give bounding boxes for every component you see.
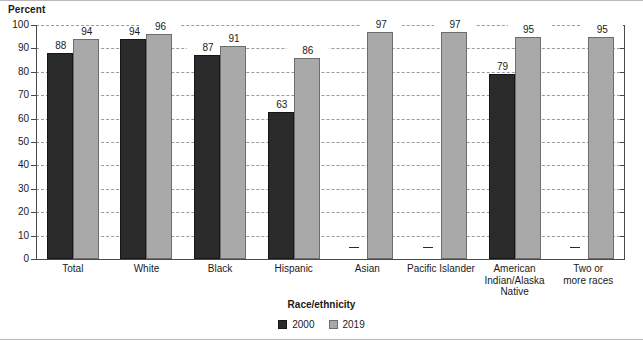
- y-tick-label: 60: [18, 114, 29, 124]
- y-axis-title: Percent: [8, 4, 45, 15]
- y-tick-label: 100: [12, 20, 29, 30]
- bar-2019-white: [146, 34, 172, 259]
- legend-swatch-icon: [278, 320, 287, 329]
- missing-data-dash: [570, 247, 580, 248]
- legend-item-2000[interactable]: 2000: [278, 319, 314, 330]
- bar-2019-two-or-more-races: [588, 37, 614, 259]
- bar-2019-black: [220, 46, 246, 259]
- bar-2000-total: [47, 53, 73, 259]
- x-category-label: Asian: [331, 263, 405, 275]
- bar-2000-black: [194, 55, 220, 259]
- bar-2000-white: [120, 39, 146, 259]
- bar-chart-figure: Percent 0102030405060708090100 TotalWhit…: [0, 0, 643, 340]
- bar-value-label: 95: [508, 24, 550, 35]
- bar-value-label: 97: [360, 19, 402, 30]
- y-tick-label: 30: [18, 184, 29, 194]
- x-category-label: American Indian/Alaska Native: [478, 263, 552, 298]
- bar-value-label: 91: [213, 33, 255, 44]
- bar-2019-hispanic: [294, 58, 320, 259]
- bar-2019-pacific-islander: [441, 32, 467, 259]
- bar-value-label: 97: [434, 19, 476, 30]
- y-tick-label: 80: [18, 67, 29, 77]
- legend-label: 2000: [292, 319, 314, 330]
- x-axis-title: Race/ethnicity: [0, 299, 643, 310]
- y-tick-label: 40: [18, 160, 29, 170]
- legend: 20002019: [0, 319, 643, 330]
- bar-2019-asian: [367, 32, 393, 259]
- bar-2019-total: [73, 39, 99, 259]
- x-category-label: Total: [36, 263, 110, 275]
- y-tick-label: 50: [18, 137, 29, 147]
- bar-2000-american-indian-alaska-native: [489, 74, 515, 259]
- bar-2000-hispanic: [268, 112, 294, 259]
- bar-value-label: 95: [581, 24, 623, 35]
- x-category-label: White: [110, 263, 184, 275]
- x-category-label: Hispanic: [257, 263, 331, 275]
- y-tick-label: 70: [18, 90, 29, 100]
- legend-swatch-icon: [329, 320, 338, 329]
- legend-item-2019[interactable]: 2019: [329, 319, 365, 330]
- bar-value-label: 94: [66, 26, 108, 37]
- legend-label: 2019: [343, 319, 365, 330]
- missing-data-dash: [423, 247, 433, 248]
- x-axis-line: [36, 259, 625, 260]
- y-tick-label: 10: [18, 231, 29, 241]
- y-tick-label: 0: [23, 254, 29, 264]
- x-category-label: Black: [183, 263, 257, 275]
- missing-data-dash: [349, 247, 359, 248]
- bar-2019-american-indian-alaska-native: [515, 37, 541, 259]
- y-tick-label: 90: [18, 43, 29, 53]
- bar-value-label: 96: [139, 21, 181, 32]
- y-tick-label: 20: [18, 207, 29, 217]
- bar-value-label: 86: [287, 45, 329, 56]
- x-category-label: Two or more races: [551, 263, 625, 286]
- x-category-label: Pacific Islander: [404, 263, 478, 275]
- top-edge-rule: [0, 0, 643, 1]
